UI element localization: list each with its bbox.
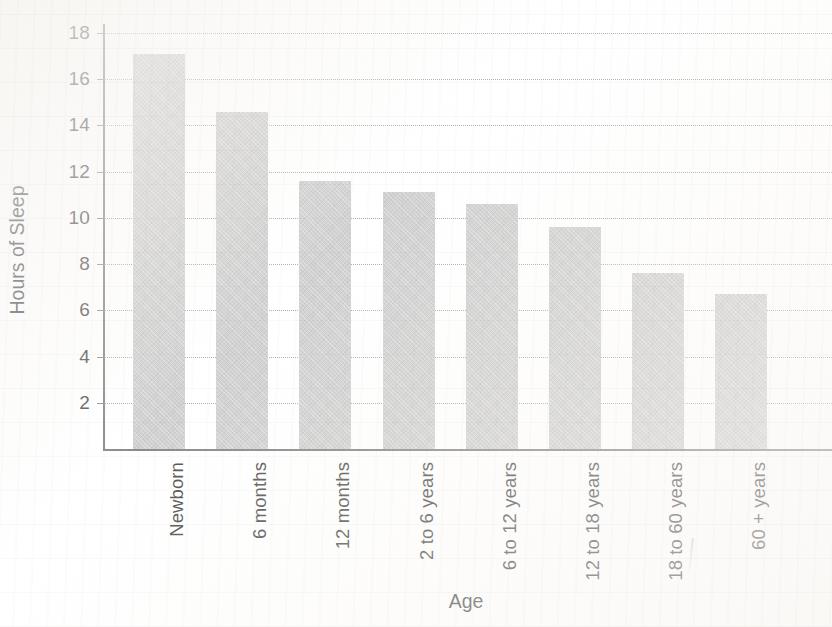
bar xyxy=(632,273,684,449)
y-axis-tick-label: 16 xyxy=(50,69,90,88)
x-axis-tick-label: 12 to 18 years xyxy=(584,462,603,581)
y-axis-title: Hours of Sleep xyxy=(8,186,28,315)
y-axis-tick-mark xyxy=(97,264,104,265)
y-axis-tick-label-text: 8 xyxy=(58,254,90,273)
bar xyxy=(466,204,518,449)
x-axis-tick-label: 2 to 6 years xyxy=(418,462,437,560)
gridline xyxy=(104,172,832,173)
bar xyxy=(383,192,435,449)
y-axis-tick-label-text: 2 xyxy=(58,393,90,412)
y-axis-tick-mark xyxy=(97,172,104,173)
y-axis-tick-label: 4 xyxy=(50,347,90,366)
y-axis-tick-mark xyxy=(97,218,104,219)
y-axis-tick-label-text: 16 xyxy=(58,69,90,88)
x-axis-tick-label: 12 months xyxy=(334,462,353,549)
y-axis-tick-label-text: 12 xyxy=(58,162,90,181)
y-axis-tick-mark xyxy=(97,33,104,34)
y-axis-tick-label-text: 4 xyxy=(58,347,90,366)
y-axis-tick-mark xyxy=(97,403,104,404)
y-axis-tick-label: 14 xyxy=(50,115,90,134)
y-axis-tick-label: 10 xyxy=(50,208,90,227)
gridline xyxy=(104,125,832,126)
y-axis-tick-mark xyxy=(97,125,104,126)
x-axis-tick-label: 18 to 60 years xyxy=(667,462,686,581)
gridline xyxy=(104,79,832,80)
bar xyxy=(216,112,268,449)
y-axis-line xyxy=(103,24,105,450)
x-axis-tick-label: 6 months xyxy=(251,462,270,539)
y-axis-tick-label: 12 xyxy=(50,162,90,181)
y-axis-tick-label-text: 6 xyxy=(58,300,90,319)
bar xyxy=(715,294,767,449)
y-axis-tick-mark xyxy=(97,310,104,311)
y-axis-tick-label-text: 14 xyxy=(58,115,90,134)
y-axis-tick-mark xyxy=(97,79,104,80)
bar xyxy=(549,227,601,449)
bar-chart: 24681012141618 Newborn6 months12 months2… xyxy=(0,0,832,627)
scan-artifact-mark xyxy=(688,538,694,574)
x-axis-tick-label: 60 + years xyxy=(750,462,769,550)
x-axis-line xyxy=(103,449,832,451)
x-axis-tick-label: Newborn xyxy=(168,462,187,537)
y-axis-tick-label: 2 xyxy=(50,393,90,412)
y-axis-tick-label-text: 18 xyxy=(58,23,90,42)
y-axis-tick-label: 18 xyxy=(50,23,90,42)
x-axis-tick-label: 6 to 12 years xyxy=(501,462,520,570)
bar xyxy=(299,181,351,449)
x-axis-title: Age xyxy=(0,592,832,612)
y-axis-tick-label-text: 10 xyxy=(58,208,90,227)
y-axis-tick-label: 6 xyxy=(50,300,90,319)
y-axis-tick-mark xyxy=(97,357,104,358)
y-axis-tick-label: 8 xyxy=(50,254,90,273)
gridline xyxy=(104,33,832,34)
bar xyxy=(133,54,185,449)
